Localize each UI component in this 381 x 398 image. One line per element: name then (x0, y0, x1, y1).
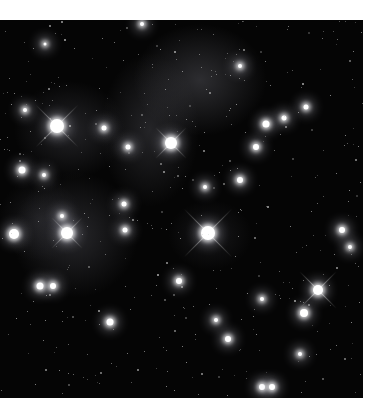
star (44, 43, 47, 46)
faint-star (123, 60, 124, 61)
faint-star (239, 78, 240, 79)
faint-star (97, 382, 98, 383)
faint-star (152, 24, 153, 25)
faint-star (90, 203, 91, 204)
faint-star (298, 112, 299, 113)
faint-star (351, 322, 352, 323)
faint-star (266, 372, 267, 373)
faint-star (323, 31, 324, 32)
faint-star (322, 38, 323, 39)
faint-star (68, 135, 69, 136)
faint-star (2, 238, 3, 239)
faint-star (141, 114, 143, 116)
faint-star (49, 25, 51, 27)
star (304, 105, 309, 110)
faint-star (21, 293, 22, 294)
faint-star (33, 48, 34, 49)
faint-star (177, 175, 179, 177)
faint-star (344, 358, 346, 360)
faint-star (225, 58, 226, 59)
faint-star (213, 270, 214, 271)
faint-star (195, 339, 196, 340)
faint-star (137, 220, 138, 221)
faint-star (245, 132, 246, 133)
faint-star (46, 295, 47, 296)
faint-star (223, 183, 225, 185)
faint-star (349, 250, 350, 251)
faint-star (49, 294, 51, 296)
faint-star (127, 353, 128, 354)
faint-star (312, 325, 313, 326)
faint-star (355, 392, 356, 393)
star (176, 278, 182, 284)
faint-star (55, 33, 56, 34)
faint-star (345, 306, 346, 307)
faint-star (230, 170, 231, 171)
faint-star (189, 105, 191, 107)
faint-star (265, 61, 266, 62)
faint-star (118, 198, 119, 199)
faint-star (348, 285, 349, 286)
faint-star (17, 176, 18, 177)
faint-star (159, 337, 160, 338)
faint-star (226, 116, 227, 117)
faint-star (160, 163, 162, 165)
faint-star (348, 215, 349, 216)
faint-star (88, 266, 90, 268)
faint-star (176, 59, 177, 60)
faint-star (263, 141, 264, 142)
faint-star (182, 346, 183, 347)
faint-star (353, 51, 354, 52)
faint-star (75, 288, 76, 289)
faint-star (52, 100, 53, 101)
star (165, 137, 177, 149)
star (339, 227, 345, 233)
faint-star (35, 384, 36, 385)
faint-star (23, 154, 24, 155)
faint-star (45, 369, 47, 371)
faint-star (114, 42, 115, 43)
star (225, 336, 231, 342)
faint-star (64, 39, 66, 41)
faint-star (317, 175, 318, 176)
faint-star (308, 32, 310, 34)
star (259, 384, 265, 390)
faint-star (171, 223, 172, 224)
faint-star (69, 125, 71, 127)
faint-star (95, 123, 97, 125)
faint-star (54, 83, 55, 84)
faint-star (152, 228, 153, 229)
faint-star (325, 235, 326, 236)
faint-star (296, 252, 297, 253)
faint-star (167, 371, 168, 372)
faint-star (174, 177, 175, 178)
star (126, 145, 131, 150)
faint-star (351, 254, 352, 255)
faint-star (285, 126, 287, 128)
faint-star (222, 369, 223, 370)
faint-star (99, 324, 100, 325)
faint-star (167, 107, 168, 108)
faint-star (145, 122, 146, 123)
faint-star (184, 308, 185, 309)
faint-star (256, 223, 257, 224)
star (50, 283, 56, 289)
faint-star (44, 188, 45, 189)
faint-star (90, 305, 91, 306)
faint-star (213, 187, 215, 189)
faint-star (178, 167, 179, 168)
faint-star (125, 258, 126, 259)
faint-star (7, 149, 8, 150)
faint-star (241, 319, 242, 320)
faint-star (169, 115, 170, 116)
faint-star (126, 27, 128, 29)
faint-star (87, 379, 88, 380)
faint-star (21, 96, 22, 97)
faint-star (68, 373, 69, 374)
faint-star (299, 314, 300, 315)
faint-star (152, 191, 153, 192)
faint-star (62, 311, 63, 312)
faint-star (265, 136, 266, 137)
faint-star (254, 237, 256, 239)
faint-star (301, 392, 302, 393)
